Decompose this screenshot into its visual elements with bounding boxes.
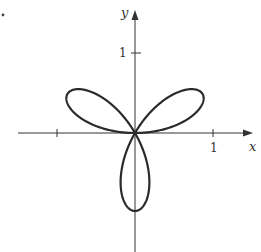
y-tick-label: 1 xyxy=(119,46,127,60)
x-axis-label: x xyxy=(249,139,257,154)
y-axis-label: y xyxy=(120,5,129,20)
y-axis-arrow-icon xyxy=(132,10,139,20)
x-tick-label: 1 xyxy=(210,141,218,155)
polar-rose-plot: 1 1 x y xyxy=(0,0,261,252)
marker-dot xyxy=(2,14,5,17)
x-axis-arrow-icon xyxy=(243,130,253,137)
